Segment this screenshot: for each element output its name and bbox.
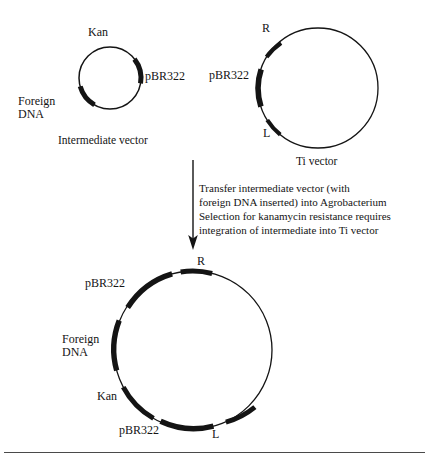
intermediate-kan-label: Kan — [88, 26, 108, 39]
ti-r-border-arc — [267, 43, 281, 57]
ti-l-label: L — [263, 127, 270, 140]
ti-pbr322-label: pBR322 — [209, 69, 249, 82]
ti-r-label: R — [262, 22, 270, 35]
integrated-foreign-dna-label-line2: DNA — [62, 346, 88, 359]
intermediate-pbr322-label: pBR322 — [145, 70, 185, 83]
transfer-step-text: Transfer intermediate vector (with forei… — [199, 182, 424, 238]
integrated-l-border-arc — [226, 407, 255, 422]
integrated-pbr322-bottom-label: pBR322 — [119, 424, 159, 437]
intermediate-vector-group — [79, 47, 141, 109]
integrated-kan-arc — [123, 387, 153, 418]
footer-divider — [4, 452, 425, 453]
integrated-pbr322-top-label: pBR322 — [85, 277, 125, 290]
ti-vector-group — [258, 28, 378, 148]
integrated-pbr322-top-arc — [128, 274, 172, 308]
transfer-arrow — [188, 160, 198, 250]
ti-vector-caption: Ti vector — [296, 155, 337, 168]
integrated-foreign-dna-arc — [114, 320, 119, 370]
ti-pbr322-arc — [258, 69, 261, 106]
intermediate-foreign-dna-arc — [80, 86, 94, 104]
integrated-kan-label: Kan — [97, 390, 117, 403]
integrated-r-label: R — [197, 255, 205, 268]
intermediate-vector-caption: Intermediate vector — [58, 134, 148, 147]
integrated-vector-group — [114, 271, 272, 429]
intermediate-pbr322-arc — [134, 59, 141, 83]
integrated-r-border-arc — [181, 271, 212, 273]
integrated-pbr322-bottom-arc — [161, 421, 214, 428]
intermediate-foreign-dna-label-line2: DNA — [18, 108, 44, 121]
integrated-l-label: L — [212, 428, 219, 441]
